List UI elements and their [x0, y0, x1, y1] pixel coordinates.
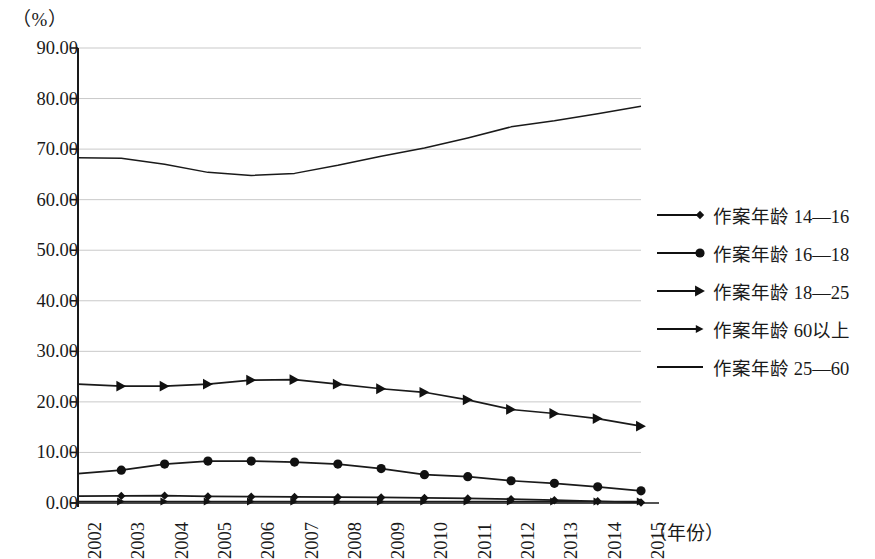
series-4 — [78, 106, 641, 175]
data-point-marker — [636, 421, 646, 432]
legend-item[interactable]: 作案年龄 18—25 — [655, 272, 875, 310]
x-axis-tick-label: 2003 — [129, 522, 148, 559]
data-point-marker — [247, 456, 256, 465]
x-axis-tick-label: 2006 — [259, 522, 278, 559]
series-2 — [78, 374, 646, 431]
legend-item[interactable]: 作案年龄 60以上 — [655, 310, 875, 348]
data-point-marker — [593, 413, 603, 424]
legend-marker-circle-icon — [655, 243, 707, 263]
data-point-marker — [203, 456, 212, 465]
data-point-marker — [203, 379, 213, 390]
data-point-marker — [333, 379, 343, 390]
x-axis-tick-label: 2013 — [562, 522, 581, 559]
legend-label: 作案年龄 25—60 — [707, 354, 849, 380]
data-point-marker — [463, 394, 473, 405]
data-point-marker — [636, 486, 645, 495]
x-axis-tick-label: 2010 — [432, 522, 451, 559]
series-1 — [78, 456, 646, 495]
data-point-marker — [549, 408, 559, 419]
data-point-marker — [290, 457, 299, 466]
chart-legend: 作案年龄 14—16作案年龄 16—18作案年龄 18—25作案年龄 60以上作… — [655, 196, 875, 386]
x-axis-tick-label: 2014 — [606, 522, 625, 559]
data-point-marker — [695, 248, 704, 257]
x-axis-tick-label: 2009 — [389, 522, 408, 559]
data-point-marker — [420, 470, 429, 479]
data-point-marker — [246, 375, 256, 386]
series-line — [78, 106, 641, 175]
legend-marker-none-icon — [655, 357, 707, 377]
x-axis-tick-label: 2007 — [303, 522, 322, 559]
data-point-marker — [333, 459, 342, 468]
data-point-marker — [117, 466, 126, 475]
data-point-marker — [695, 286, 705, 297]
data-point-marker — [506, 476, 515, 485]
x-axis-tick-label: 2012 — [519, 522, 538, 559]
data-point-marker — [696, 325, 704, 333]
x-axis-title: （年份） — [648, 518, 724, 545]
x-axis-tick-label: 2005 — [216, 522, 235, 559]
legend-item[interactable]: 作案年龄 14—16 — [655, 196, 875, 234]
legend-item[interactable]: 作案年龄 16—18 — [655, 234, 875, 272]
legend-marker-arrow-icon — [655, 319, 707, 339]
x-axis-tick-label: 2004 — [173, 522, 192, 559]
legend-label: 作案年龄 16—18 — [707, 240, 849, 266]
data-point-marker — [376, 383, 386, 394]
legend-label: 作案年龄 60以上 — [707, 316, 850, 342]
series-3 — [78, 497, 645, 505]
data-point-marker — [696, 211, 704, 219]
x-axis-tick-label: 2002 — [86, 522, 105, 559]
data-point-marker — [593, 482, 602, 491]
legend-marker-triangle-icon — [655, 281, 707, 301]
data-point-marker — [290, 374, 300, 385]
data-point-marker — [506, 404, 516, 415]
legend-label: 作案年龄 18—25 — [707, 278, 849, 304]
data-point-marker — [463, 472, 472, 481]
x-axis-tick-label: 2011 — [476, 523, 495, 559]
x-axis-tick-label: 2008 — [346, 522, 365, 559]
data-point-marker — [550, 479, 559, 488]
data-point-marker — [160, 381, 170, 392]
data-point-marker — [160, 459, 169, 468]
legend-label: 作案年龄 14—16 — [707, 202, 849, 228]
data-point-marker — [420, 387, 430, 398]
data-point-marker — [116, 381, 126, 392]
legend-item[interactable]: 作案年龄 25—60 — [655, 348, 875, 386]
legend-marker-diamond-icon — [655, 205, 707, 225]
data-point-marker — [377, 464, 386, 473]
